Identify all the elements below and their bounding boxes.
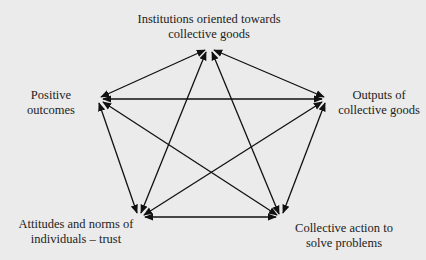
node-attitudes: Attitudes and norms of individuals – tru… — [14, 217, 138, 247]
node-attitudes-line1: Attitudes and norms of — [14, 217, 138, 232]
node-institutions-line1: Institutions oriented towards — [120, 12, 298, 27]
edge-institutions-action — [212, 52, 279, 214]
node-action: Collective action to solve problems — [288, 221, 400, 251]
node-positive-line1: Positive — [20, 88, 82, 103]
node-institutions-line2: collective goods — [120, 27, 298, 42]
edge-institutions-positive — [101, 50, 205, 97]
node-institutions: Institutions oriented towards collective… — [120, 12, 298, 42]
edge-outputs-attitudes — [144, 102, 322, 215]
node-attitudes-line2: individuals – trust — [14, 232, 138, 247]
node-action-line1: Collective action to — [288, 221, 400, 236]
edge-institutions-outputs — [214, 50, 324, 97]
edge-positive-action — [103, 102, 277, 215]
node-outputs: Outputs of collective goods — [334, 88, 424, 118]
node-outputs-line1: Outputs of — [334, 88, 424, 103]
edge-positive-attitudes — [99, 103, 137, 213]
node-positive-line2: outcomes — [20, 103, 82, 118]
node-positive: Positive outcomes — [20, 88, 82, 118]
node-outputs-line2: collective goods — [334, 103, 424, 118]
node-action-line2: solve problems — [288, 236, 400, 251]
edge-outputs-action — [283, 103, 325, 213]
